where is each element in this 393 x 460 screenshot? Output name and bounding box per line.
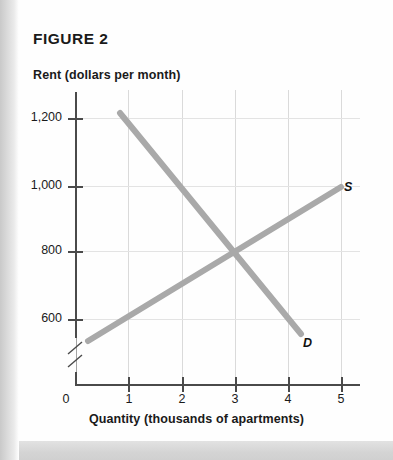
x-tick-label-5: 5: [326, 392, 356, 406]
supply-curve-label: S: [344, 180, 352, 194]
x-tick-label-3: 3: [220, 392, 250, 406]
x-tick-5: [341, 377, 343, 392]
supply-curve: [88, 187, 341, 341]
y-tick-label-800: 800: [0, 243, 62, 257]
curves-layer: [0, 0, 393, 460]
y-tick-label-1200: 1,200: [0, 110, 62, 124]
figure-page: FIGURE 2 Rent (dollars per month): [0, 0, 393, 460]
x-axis-title: Quantity (thousands of apartments): [0, 412, 393, 426]
y-tick-600: [68, 319, 83, 321]
y-tick-label-1000: 1,000: [0, 178, 62, 192]
x-tick-3: [235, 377, 237, 392]
x-tick-4: [288, 377, 290, 392]
x-tick-2: [182, 377, 184, 392]
x-tick-label-2: 2: [167, 392, 197, 406]
x-axis-line: [75, 384, 360, 386]
y-tick-800: [68, 251, 83, 253]
chart-plot-area: 1,200 1,000 800 600 0 1 2 3 4 5 S D: [0, 0, 393, 460]
y-tick-label-600: 600: [0, 311, 62, 325]
x-tick-label-0: 0: [51, 392, 81, 406]
y-tick-1000: [68, 186, 83, 188]
y-axis-break-icon: [63, 338, 89, 372]
x-tick-label-1: 1: [114, 392, 144, 406]
x-tick-1: [128, 377, 130, 392]
demand-curve-label: D: [303, 336, 312, 350]
x-tick-label-4: 4: [273, 392, 303, 406]
demand-curve: [120, 113, 301, 334]
y-tick-1200: [68, 118, 83, 120]
